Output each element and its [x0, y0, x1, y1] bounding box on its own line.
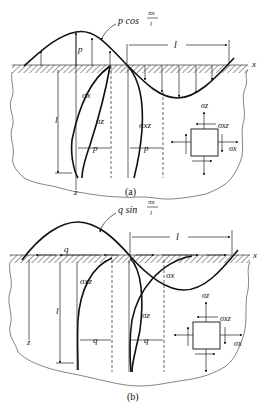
caption-b: (b) [127, 391, 139, 403]
load-label-b: q sin [118, 204, 137, 215]
svg-text:p: p [143, 143, 149, 153]
svg-text:σx: σx [229, 144, 237, 153]
svg-text:l: l [150, 209, 152, 217]
load-label-a: p cos [117, 15, 139, 26]
wavelength-label-a: l [174, 39, 177, 50]
svg-text:σxz: σxz [220, 314, 231, 323]
wavelength-label-b: l [176, 231, 179, 242]
z-axis-label-b: z [26, 337, 31, 347]
svg-text:p: p [92, 143, 98, 153]
x-axis-label-b: x [252, 250, 257, 260]
svg-text:πx: πx [148, 198, 156, 206]
x-axis-label-a: x [251, 59, 256, 69]
sigma-x-curve-a [72, 66, 110, 178]
svg-text:l: l [150, 20, 152, 28]
svg-text:σx: σx [166, 270, 174, 280]
caption-a: (a) [125, 186, 136, 198]
svg-text:πx: πx [148, 9, 156, 17]
sigma-z-curve-b [130, 256, 192, 372]
svg-text:σxz: σxz [139, 120, 151, 130]
soil-boundary-a [10, 70, 248, 199]
svg-text:σxz: σxz [218, 121, 229, 130]
svg-text:σz: σz [201, 101, 209, 110]
depth-label-a: l [55, 115, 58, 125]
stress-distribution-diagram: p cos πx l p l x l z σx σz σxz p p [0, 0, 268, 412]
svg-text:σz: σz [202, 291, 210, 300]
stress-element-a: σz σxz σx [171, 101, 238, 175]
figure-root: p cos πx l p l x l z σx σz σxz p p [0, 0, 268, 412]
svg-text:σxz: σxz [80, 276, 92, 286]
svg-text:q: q [144, 335, 149, 345]
sigma-xz-curve-b [78, 258, 112, 370]
svg-text:σx: σx [234, 339, 242, 348]
svg-text:σz: σz [96, 116, 104, 126]
amplitude-label-b: q [64, 244, 69, 254]
sigma-x-curve-b [130, 258, 142, 372]
panel-b: q sin πx l q l x z l σxz σx σz q q [9, 198, 257, 403]
amplitude-label-a: p [77, 44, 83, 54]
soil-boundary-b [9, 262, 250, 386]
z-axis-label-a: z [73, 187, 78, 197]
panel-a: p cos πx l p l x l z σx σz σxz p p [10, 9, 256, 199]
svg-text:q: q [93, 335, 98, 345]
svg-text:σx: σx [82, 90, 90, 100]
depth-label-b: l [56, 306, 59, 316]
svg-text:σz: σz [142, 310, 150, 320]
